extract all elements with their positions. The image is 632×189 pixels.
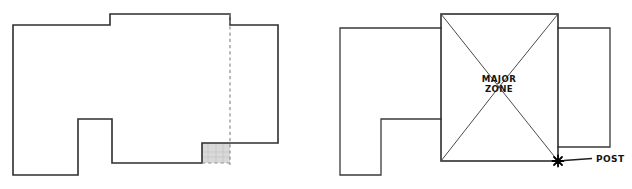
right-panel-group: MAJOR ZONE POST xyxy=(340,14,625,175)
post-marker-icon xyxy=(553,156,564,167)
left-panel-group xyxy=(13,14,278,175)
right-plan-east-wing xyxy=(558,28,610,147)
hip-line-bottom-left xyxy=(441,87,499,161)
left-plan-outline xyxy=(13,14,278,175)
post-leader-line xyxy=(564,159,592,161)
plan-drawing-canvas: MAJOR ZONE POST xyxy=(0,0,632,189)
major-zone-label-line-1: MAJOR xyxy=(482,74,516,84)
hip-line-bottom-right xyxy=(499,87,558,161)
major-zone-label-line-2: ZONE xyxy=(485,84,513,94)
post-label: POST xyxy=(596,154,625,164)
right-plan-west-wing xyxy=(340,28,441,175)
architectural-plan-figure: MAJOR ZONE POST xyxy=(0,0,632,189)
